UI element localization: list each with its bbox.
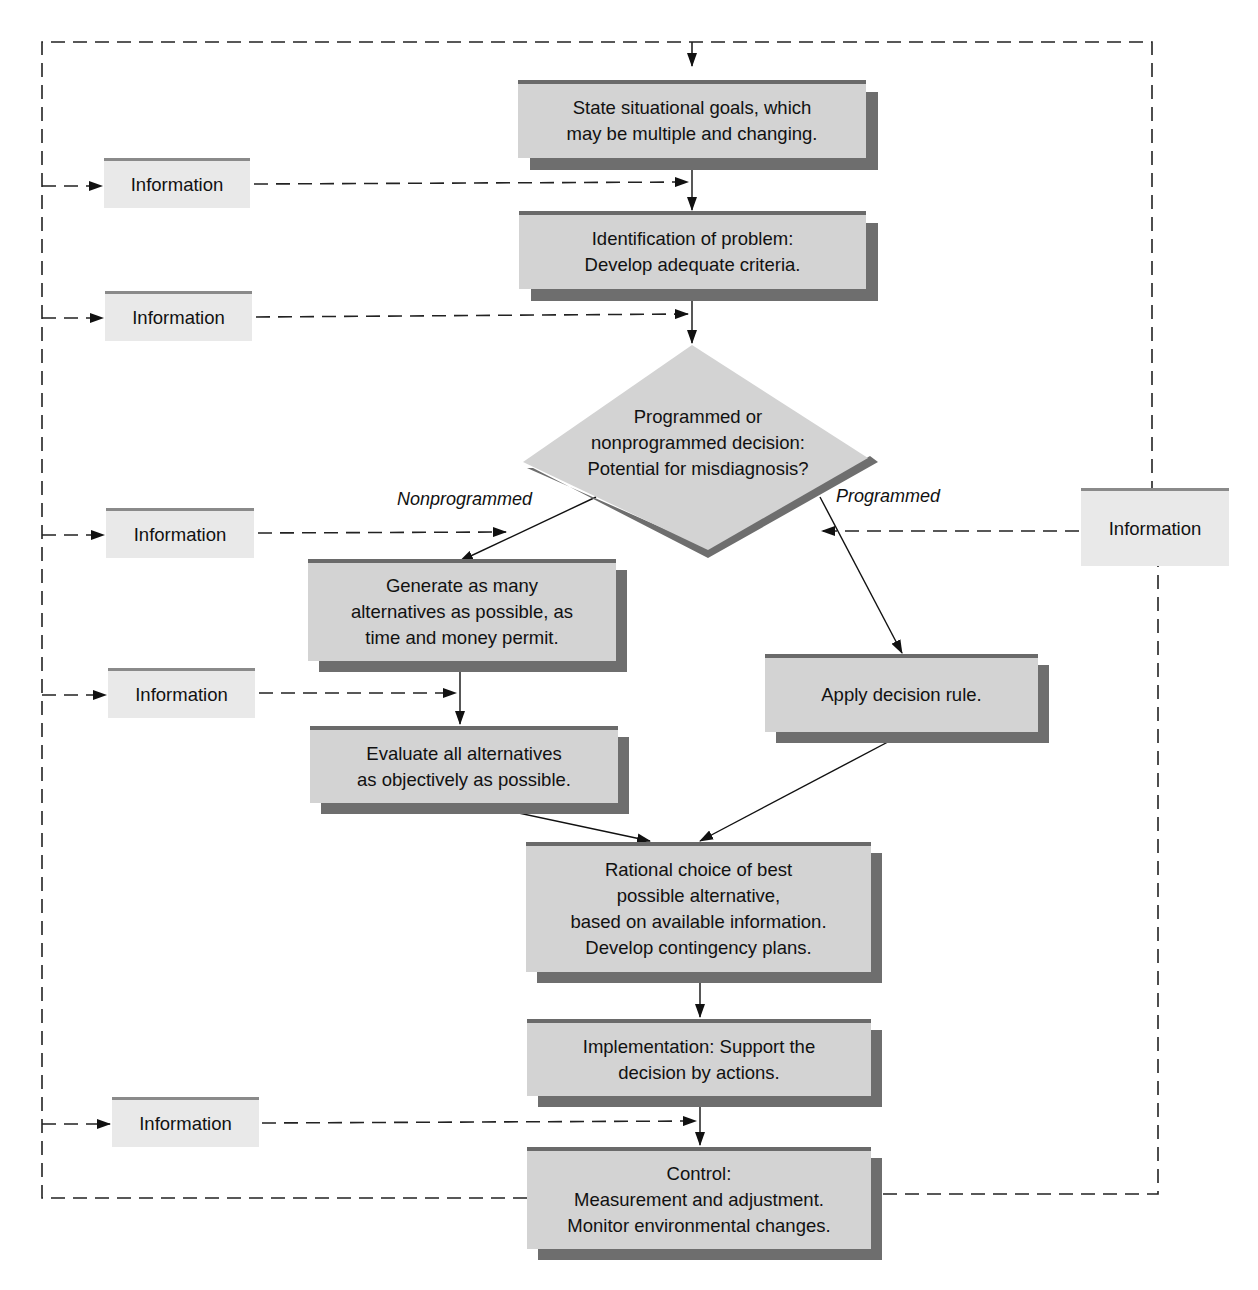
step-text: based on available information. bbox=[570, 909, 826, 935]
step-text: alternatives as possible, as bbox=[351, 599, 573, 625]
step-text: Apply decision rule. bbox=[821, 682, 981, 708]
step-text: may be multiple and changing. bbox=[567, 121, 818, 147]
step-text: time and money permit. bbox=[351, 625, 573, 651]
step-problem: Identification of problem: Develop adequ… bbox=[519, 211, 866, 289]
step-text: Identification of problem: bbox=[585, 226, 801, 252]
step-text: Programmed or bbox=[563, 404, 833, 430]
box-face: Evaluate all alternatives as objectively… bbox=[310, 726, 618, 803]
info-box-evaluate: Information bbox=[108, 668, 255, 718]
step-text: as objectively as possible. bbox=[357, 767, 571, 793]
step-text: Develop contingency plans. bbox=[570, 935, 826, 961]
step-text: Rational choice of best bbox=[570, 857, 826, 883]
step-implementation: Implementation: Support the decision by … bbox=[527, 1019, 871, 1096]
step-text: Control: bbox=[567, 1161, 830, 1187]
step-generate: Generate as many alternatives as possibl… bbox=[308, 559, 616, 661]
step-text: Monitor environmental changes. bbox=[567, 1213, 830, 1239]
info-box-control: Information bbox=[112, 1097, 259, 1147]
box-face: Implementation: Support the decision by … bbox=[527, 1019, 871, 1096]
box-face: Apply decision rule. bbox=[765, 654, 1038, 732]
step-text: Evaluate all alternatives bbox=[357, 741, 571, 767]
step-choice: Rational choice of best possible alterna… bbox=[526, 842, 871, 972]
box-face: State situational goals, which may be mu… bbox=[518, 80, 866, 158]
step-text: nonprogrammed decision: bbox=[563, 430, 833, 456]
label-programmed: Programmed bbox=[836, 486, 940, 507]
label-nonprogrammed: Nonprogrammed bbox=[397, 489, 532, 510]
step-text: possible alternative, bbox=[570, 883, 826, 909]
step-evaluate: Evaluate all alternatives as objectively… bbox=[310, 726, 618, 803]
info-box-apply: Information bbox=[1081, 488, 1229, 566]
step-control: Control: Measurement and adjustment. Mon… bbox=[527, 1147, 871, 1249]
step-text: Develop adequate criteria. bbox=[585, 252, 801, 278]
box-face: Rational choice of best possible alterna… bbox=[526, 842, 871, 972]
step-text: Implementation: Support the bbox=[583, 1034, 815, 1060]
step-goals: State situational goals, which may be mu… bbox=[518, 80, 866, 158]
step-text: Generate as many bbox=[351, 573, 573, 599]
step-text: decision by actions. bbox=[583, 1060, 815, 1086]
info-box-decision: Information bbox=[105, 291, 252, 341]
info-box-problem: Information bbox=[104, 158, 250, 208]
step-text: Measurement and adjustment. bbox=[567, 1187, 830, 1213]
step-apply: Apply decision rule. bbox=[765, 654, 1038, 732]
box-face: Identification of problem: Develop adequ… bbox=[519, 211, 866, 289]
info-box-generate: Information bbox=[106, 508, 254, 558]
decision-text: Programmed or nonprogrammed decision: Po… bbox=[563, 404, 833, 482]
step-text: State situational goals, which bbox=[567, 95, 818, 121]
box-face: Control: Measurement and adjustment. Mon… bbox=[527, 1147, 871, 1249]
box-face: Generate as many alternatives as possibl… bbox=[308, 559, 616, 661]
info-feed-arrows-left bbox=[42, 186, 110, 1124]
step-text: Potential for misdiagnosis? bbox=[563, 456, 833, 482]
